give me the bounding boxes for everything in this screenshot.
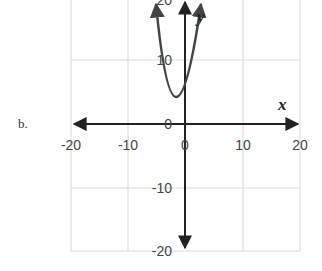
x-tick-label: 0 (181, 137, 189, 153)
y-tick-label: 10 (156, 52, 172, 68)
y-tick-label: -10 (152, 180, 172, 196)
x-tick-label: 10 (235, 137, 251, 153)
y-tick-label: 20 (156, 0, 172, 8)
x-tick-label: 20 (292, 137, 308, 153)
x-tick-label: -20 (61, 137, 81, 153)
y-tick-label: 0 (164, 116, 172, 132)
graph: -20 -10 0 10 20 20 10 0 -10 -20 x y (0, 0, 322, 271)
parabola-curve (156, 4, 201, 97)
x-axis-label: x (277, 95, 287, 114)
y-tick-label: -20 (152, 243, 172, 259)
x-tick-label: -10 (118, 137, 138, 153)
y-axis-label: y (195, 7, 205, 26)
